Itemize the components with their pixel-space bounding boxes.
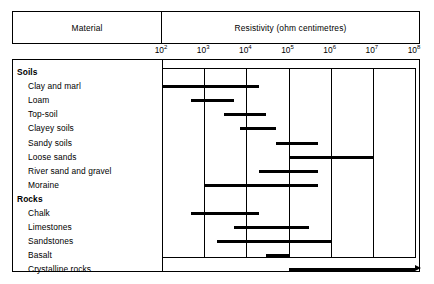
gridline-6 <box>415 68 416 258</box>
range-bar <box>289 268 416 271</box>
x-tick-label-4: 106 <box>323 45 336 55</box>
row-label: Basalt <box>28 250 52 260</box>
row-label: Loam <box>28 95 49 105</box>
x-tick-label-3: 105 <box>281 45 294 55</box>
range-bar <box>266 254 288 257</box>
resistivity-range-chart: Material Resistivity (ohm centimetres) 1… <box>0 0 434 284</box>
range-bar <box>234 226 309 229</box>
gridline-2 <box>246 68 247 258</box>
row-label: Sandy soils <box>28 138 72 148</box>
row-label: Moraine <box>28 180 59 190</box>
x-tick-label-2: 104 <box>239 45 252 55</box>
range-bar <box>217 240 331 243</box>
range-bar <box>191 99 233 102</box>
range-bar <box>289 156 373 159</box>
x-tick-label-6: 108 <box>408 45 421 55</box>
range-bar <box>162 85 259 88</box>
row-label: Top-soil <box>28 109 58 119</box>
group-label: Rocks <box>17 194 43 204</box>
header-resistivity: Resistivity (ohm centimetres) <box>162 12 419 43</box>
plot-area <box>162 60 419 271</box>
range-bar-arrowhead <box>415 265 421 271</box>
row-label: Limestones <box>28 222 72 232</box>
range-bar <box>240 127 276 130</box>
gridline-4 <box>331 68 332 258</box>
x-axis-tick-labels: 102103104105106107108 <box>0 44 434 59</box>
table-header: Material Resistivity (ohm centimetres) <box>12 11 420 44</box>
x-tick-label-1: 103 <box>197 45 210 55</box>
range-bar <box>259 170 318 173</box>
range-bar <box>276 142 318 145</box>
range-bar <box>204 184 318 187</box>
group-label: Soils <box>17 67 38 77</box>
row-label: Clayey soils <box>28 123 74 133</box>
row-label: River sand and gravel <box>28 166 112 176</box>
row-label: Sandstones <box>28 236 73 246</box>
row-label: Chalk <box>28 208 50 218</box>
gridline-1 <box>204 68 205 258</box>
range-bar <box>191 212 259 215</box>
x-tick-label-5: 107 <box>366 45 379 55</box>
gridline-5 <box>373 68 374 258</box>
x-tick-label-0: 102 <box>155 45 168 55</box>
row-label: Clay and marl <box>28 81 81 91</box>
chart-body: SoilsClay and marlLoamTop-soilClayey soi… <box>12 59 420 272</box>
gridline-3 <box>289 68 290 258</box>
header-material: Material <box>13 12 162 43</box>
row-label: Crystalline rocks <box>28 264 91 274</box>
range-bar <box>224 113 266 116</box>
material-label-column: SoilsClay and marlLoamTop-soilClayey soi… <box>13 60 162 271</box>
row-label: Loose sands <box>28 152 77 162</box>
